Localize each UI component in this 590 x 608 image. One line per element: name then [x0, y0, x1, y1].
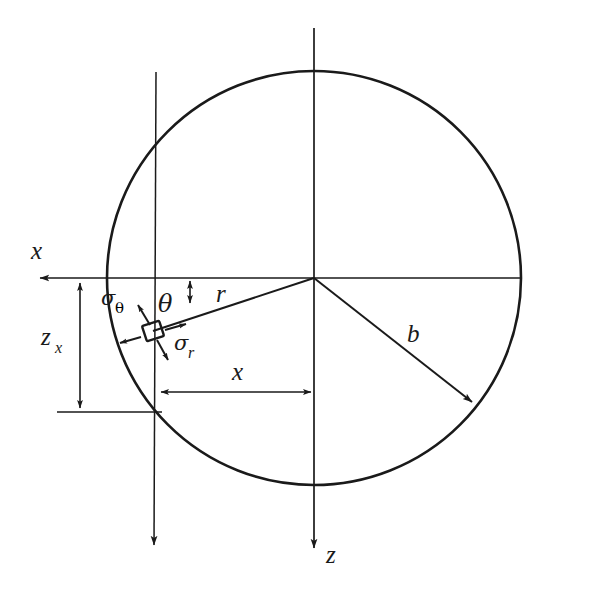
label-axis-z: z	[325, 541, 336, 568]
label-stress-r-sub: r	[188, 344, 195, 361]
figure-canvas: x z b r θ x z x σ θ σ r	[0, 0, 590, 608]
label-stress-theta: σ θ	[101, 286, 124, 317]
label-stress-r-sym: σ	[174, 331, 189, 355]
stress-diagram-svg: x z b r θ x z x σ θ σ r	[0, 0, 590, 608]
label-radius-b: b	[407, 320, 420, 347]
label-radius-r: r	[216, 280, 226, 307]
label-axis-x: x	[30, 237, 42, 264]
label-stress-r: σ r	[174, 331, 195, 361]
radius-r-line	[153, 278, 314, 331]
sigma-theta-arrow-up	[138, 305, 150, 325]
element-vertical-line	[154, 72, 156, 545]
label-stress-theta-sub: θ	[115, 299, 124, 317]
label-offset-x: x	[231, 358, 243, 385]
radius-b-arrow	[314, 278, 472, 402]
label-depth-zx-sub: x	[54, 339, 62, 356]
label-depth-zx-base: z	[40, 323, 51, 350]
label-angle-theta: θ	[158, 290, 173, 318]
sigma-r-arrow-in	[120, 337, 141, 343]
label-depth-zx: z x	[40, 323, 62, 356]
label-stress-theta-sym: σ	[101, 286, 116, 310]
sigma-theta-arrow-down	[157, 340, 168, 360]
